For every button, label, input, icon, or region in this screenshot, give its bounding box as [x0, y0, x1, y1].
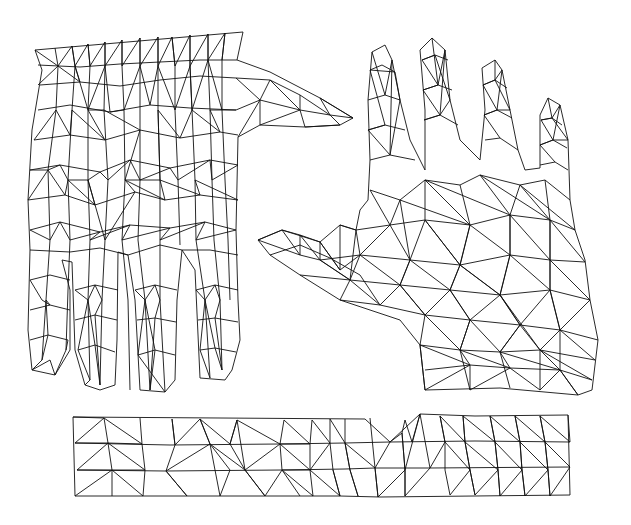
- figure-canvas: Triangulated surface meshes of a hand: b…: [0, 0, 631, 525]
- wrist-strip-mesh: [73, 414, 570, 497]
- palm-mesh: [258, 38, 598, 395]
- back-of-hand-mesh: [28, 32, 353, 392]
